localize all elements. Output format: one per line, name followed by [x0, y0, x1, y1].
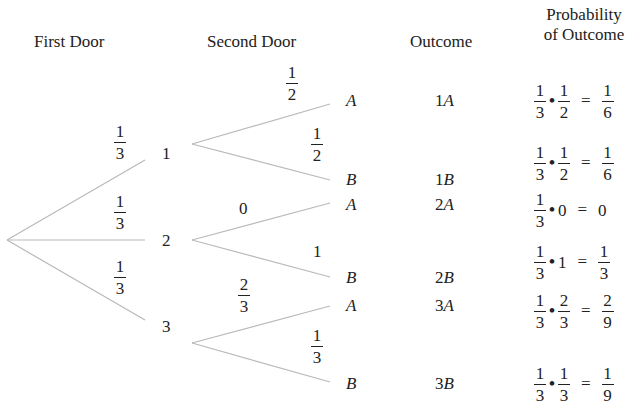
prob-calc-3A: 13 • 23 = 29	[534, 291, 614, 331]
header-probability: Probability of Outcome	[532, 5, 636, 45]
branch-prob-1B: 12	[311, 125, 323, 164]
leaf-3B: B	[346, 375, 356, 392]
prob-calc-3B: 13 • 13 = 19	[534, 364, 614, 404]
outcome-3B: 3B	[435, 375, 454, 392]
branch-prob-3B: 13	[311, 327, 323, 366]
outcome-1B: 1B	[435, 171, 454, 188]
prob-calc-1A: 13 • 12 = 16	[534, 81, 614, 121]
branch-prob-3A: 23	[238, 276, 250, 315]
prob-calc-1B: 13 • 12 = 16	[534, 143, 614, 183]
branch-prob-door-2: 13	[114, 193, 126, 232]
branch-prob-door-1: 13	[114, 123, 126, 162]
header-probability-line2: of Outcome	[532, 25, 636, 45]
prob-calc-2A: 13 • 0 = 0	[534, 190, 607, 230]
header-probability-line1: Probability	[532, 5, 636, 25]
leaf-1B: B	[346, 171, 356, 188]
node-door-2: 2	[162, 232, 171, 249]
prob-calc-2B: 13 • 1 = 13	[534, 242, 610, 282]
outcome-3A: 3A	[435, 297, 454, 314]
branch-prob-1A: 12	[286, 64, 298, 103]
leaf-2B: B	[346, 269, 356, 286]
header-outcome: Outcome	[410, 32, 472, 52]
leaf-3A: A	[346, 297, 356, 314]
outcome-2B: 2B	[435, 269, 454, 286]
header-first-door: First Door	[34, 32, 104, 52]
branch-prob-2B: 1	[313, 243, 322, 260]
node-door-1: 1	[162, 145, 171, 162]
leaf-2A: A	[346, 196, 356, 213]
outcome-1A: 1A	[435, 92, 454, 109]
node-door-3: 3	[162, 318, 171, 335]
outcome-2A: 2A	[435, 196, 454, 213]
header-second-door: Second Door	[207, 32, 296, 52]
branch-prob-door-3: 13	[114, 258, 126, 297]
leaf-1A: A	[346, 92, 356, 109]
branch-prob-2A: 0	[239, 200, 248, 217]
